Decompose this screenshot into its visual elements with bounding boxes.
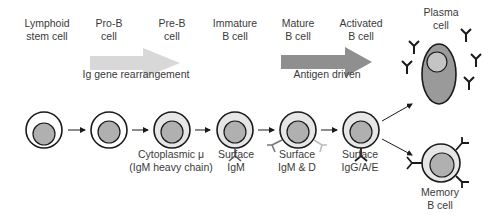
stage-label-plasma: Plasmacell	[423, 6, 458, 31]
marker-label-pre-b: Cytoplasmic μ(IgM heavy chain)	[129, 148, 212, 173]
pre-b-cell	[154, 112, 190, 148]
stage-label-activated-b: ActivatedB cell	[339, 17, 382, 42]
stage-label-lymphoid: Lymphoidstem cell	[24, 17, 69, 42]
stage-label-memory: MemoryB cell	[421, 186, 459, 211]
marker-label-mature: SurfaceIgM & D	[278, 148, 316, 173]
stage-label-pro-b: Pro-Bcell	[96, 17, 123, 42]
marker-label-activated: SurfaceIgG/A/E	[342, 148, 379, 173]
stage-label-immature-b: ImmatureB cell	[213, 17, 257, 42]
phase-label-antigen: Antigen driven	[293, 68, 360, 80]
lymphoid-stem-cell	[26, 112, 62, 148]
phase-label-rearrangement: Ig gene rearrangement	[83, 68, 190, 80]
stage-label-pre-b: Pre-Bcell	[159, 17, 186, 42]
stage-label-mature-b: MatureB cell	[282, 17, 315, 42]
pro-b-cell	[91, 112, 127, 148]
memory-b-cell	[407, 137, 469, 188]
plasma-cell	[402, 29, 481, 104]
mature-b-cell	[267, 112, 327, 152]
marker-label-immature: SurfaceIgM	[218, 148, 254, 173]
